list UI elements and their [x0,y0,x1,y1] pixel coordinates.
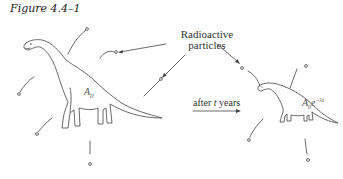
figure-4-4-1: Figure 4.4–1 [0,0,343,179]
exp-power: −λt [316,97,324,103]
after-t-years-label: after t years [193,97,243,108]
decayed-amount-label: A0e−λt [302,95,324,113]
amount-subscript: 0 [90,92,94,100]
years-text: years [217,97,241,108]
time-arrow [193,109,241,113]
decay-diagram [0,0,343,179]
label-line-2: particles [172,40,242,51]
radioactive-particles-label: Radioactive particles [172,29,242,51]
initial-amount-label: A0 [84,86,94,102]
large-dinosaur-icon [24,40,162,128]
radioactive-particles [18,28,310,166]
after-text: after [193,97,214,108]
small-dinosaur-icon [258,83,338,123]
